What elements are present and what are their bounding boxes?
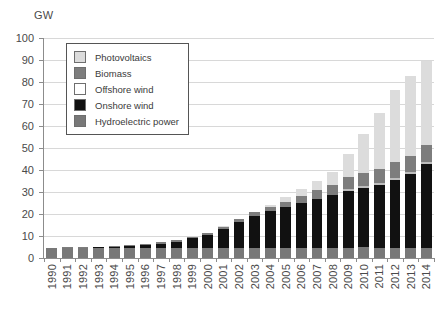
- bar-segment-biomass: [327, 185, 338, 195]
- x-tick-mark-2012: [387, 258, 388, 262]
- legend-swatch-icon: [74, 51, 86, 63]
- x-tick-mark-1993: [91, 258, 92, 262]
- y-tick-label-0: 0: [0, 253, 34, 264]
- bar-2013: [405, 76, 416, 258]
- bar-2001: [218, 226, 229, 258]
- bar-segment-hydroelectric-power: [109, 248, 120, 258]
- bar-segment-onshore-wind: [358, 188, 369, 247]
- y-tick-label-100: 100: [0, 33, 34, 44]
- x-tick-mark-1992: [75, 258, 76, 262]
- x-tick-mark-2002: [231, 258, 232, 262]
- bar-segment-hydroelectric-power: [327, 248, 338, 258]
- bar-segment-onshore-wind: [249, 216, 260, 248]
- bar-2002: [234, 219, 245, 258]
- bar-segment-photovoltaics: [374, 113, 385, 169]
- bar-segment-onshore-wind: [421, 164, 432, 248]
- bar-2008: [327, 172, 338, 258]
- bar-1996: [140, 244, 151, 258]
- x-axis-label-1997: 1997: [155, 264, 167, 289]
- x-axis-label-1994: 1994: [108, 264, 120, 289]
- bar-segment-photovoltaics: [421, 61, 432, 145]
- legend-item-label: Biomass: [95, 68, 131, 79]
- bar-1990: [46, 248, 57, 258]
- y-tick-label-80: 80: [0, 77, 34, 88]
- bar-segment-onshore-wind: [327, 195, 338, 247]
- y-tick-label-20: 20: [0, 209, 34, 220]
- legend-item-biomass: Biomass: [74, 66, 179, 80]
- bar-segment-onshore-wind: [312, 199, 323, 248]
- x-axis-label-2004: 2004: [264, 264, 276, 289]
- bar-segment-hydroelectric-power: [358, 247, 369, 258]
- bar-1991: [62, 247, 73, 258]
- x-axis-line: [43, 258, 434, 259]
- x-tick-mark-end: [434, 258, 435, 262]
- bar-segment-onshore-wind: [405, 174, 416, 248]
- x-axis-label-2010: 2010: [358, 264, 370, 289]
- bar-2010: [358, 134, 369, 259]
- x-axis-label-1993: 1993: [93, 264, 105, 289]
- legend-item-label: Photovoltaics: [95, 52, 152, 63]
- x-tick-mark-1998: [169, 258, 170, 262]
- x-tick-mark-2008: [325, 258, 326, 262]
- bar-segment-hydroelectric-power: [46, 248, 57, 258]
- y-tick-label-70: 70: [0, 99, 34, 110]
- bar-2000: [202, 233, 213, 258]
- bar-segment-onshore-wind: [374, 185, 385, 248]
- x-tick-mark-1995: [122, 258, 123, 262]
- bar-segment-hydroelectric-power: [280, 248, 291, 258]
- x-tick-mark-2013: [403, 258, 404, 262]
- x-axis-label-2011: 2011: [373, 264, 385, 288]
- legend-item-photovoltaics: Photovoltaics: [74, 50, 179, 64]
- bar-segment-biomass: [358, 173, 369, 186]
- x-tick-mark-2009: [340, 258, 341, 262]
- bar-segment-hydroelectric-power: [124, 248, 135, 258]
- y-tick-label-90: 90: [0, 55, 34, 66]
- x-axis-label-2000: 2000: [202, 264, 214, 289]
- x-tick-mark-2003: [247, 258, 248, 262]
- bar-segment-onshore-wind: [265, 211, 276, 248]
- bar-segment-hydroelectric-power: [234, 248, 245, 258]
- bar-segment-hydroelectric-power: [265, 248, 276, 258]
- legend-item-onshore-wind: Onshore wind: [74, 98, 179, 112]
- x-axis-label-1996: 1996: [139, 264, 151, 289]
- x-axis-label-2008: 2008: [327, 264, 339, 289]
- x-axis-label-2005: 2005: [280, 264, 292, 289]
- legend-swatch-icon: [74, 83, 86, 95]
- x-axis-label-2012: 2012: [389, 264, 401, 289]
- bar-segment-hydroelectric-power: [78, 248, 89, 258]
- bar-segment-photovoltaics: [390, 90, 401, 163]
- bar-segment-biomass: [343, 177, 354, 189]
- y-tick-label-50: 50: [0, 143, 34, 154]
- bar-2007: [312, 181, 323, 258]
- x-tick-mark-2006: [294, 258, 295, 262]
- bar-segment-hydroelectric-power: [421, 248, 432, 258]
- bar-segment-biomass: [421, 145, 432, 162]
- bar-segment-hydroelectric-power: [140, 248, 151, 258]
- bar-segment-hydroelectric-power: [374, 248, 385, 258]
- bar-segment-hydroelectric-power: [62, 248, 73, 258]
- x-axis-label-2014: 2014: [420, 264, 432, 289]
- bar-segment-biomass: [390, 162, 401, 177]
- bar-2009: [343, 154, 354, 258]
- legend-item-label: Hydroelectric power: [95, 116, 179, 127]
- x-tick-mark-1997: [153, 258, 154, 262]
- bar-segment-photovoltaics: [343, 154, 354, 177]
- stacked-bar-chart: GW 0102030405060708090100 19901991199219…: [0, 0, 448, 316]
- bar-2004: [265, 205, 276, 258]
- bar-2014: [421, 61, 432, 258]
- legend-swatch-icon: [74, 99, 86, 111]
- x-tick-mark-2011: [372, 258, 373, 262]
- bar-segment-hydroelectric-power: [156, 248, 167, 258]
- y-tick-label-60: 60: [0, 121, 34, 132]
- y-tick-label-40: 40: [0, 165, 34, 176]
- bar-1995: [124, 245, 135, 258]
- bar-segment-photovoltaics: [405, 76, 416, 156]
- x-axis-label-1991: 1991: [61, 264, 73, 289]
- legend-item-label: Offshore wind: [95, 84, 153, 95]
- x-axis-label-2007: 2007: [311, 264, 323, 289]
- bar-segment-onshore-wind: [343, 191, 354, 248]
- x-axis-label-1999: 1999: [186, 264, 198, 289]
- x-tick-mark-2005: [278, 258, 279, 262]
- x-axis-label-1992: 1992: [77, 264, 89, 289]
- bar-1999: [187, 237, 198, 258]
